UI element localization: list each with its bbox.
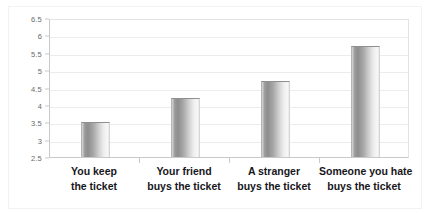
y-axis-tick-label: 2.5 — [31, 154, 42, 163]
x-axis-category-label: Someone you hatebuys the ticket — [319, 164, 409, 194]
y-axis-tick-label: 6 — [38, 32, 42, 41]
x-axis-tick-mark — [319, 158, 320, 163]
y-axis-tick-label: 5 — [38, 67, 42, 76]
bar-series — [50, 20, 408, 157]
x-axis-category-label-line: buys the ticket — [229, 179, 319, 194]
bar-slot — [50, 20, 140, 157]
y-axis: 6.565.554.543.532.5 — [0, 19, 49, 158]
bar[interactable] — [351, 46, 380, 157]
bar-slot — [140, 20, 230, 157]
x-axis-category-label: You keepthe ticket — [49, 164, 139, 194]
bar[interactable] — [261, 81, 290, 157]
y-axis-tick-label: 6.5 — [31, 15, 42, 24]
y-axis-tick-label: 3.5 — [31, 119, 42, 128]
x-axis-category-label-line: buys the ticket — [319, 179, 409, 194]
bar-slot — [320, 20, 410, 157]
x-axis-tick-mark — [139, 158, 140, 163]
x-axis-category-label-line: Someone you hate — [319, 164, 409, 179]
bar[interactable] — [81, 122, 110, 157]
x-axis-category-label-line: the ticket — [49, 179, 139, 194]
x-axis-category-label-line: Your friend — [139, 164, 229, 179]
bar-slot — [230, 20, 320, 157]
x-axis-tick-mark — [229, 158, 230, 163]
y-axis-tick-label: 3 — [38, 136, 42, 145]
plot-area — [49, 19, 409, 158]
x-axis-category-label: Your friendbuys the ticket — [139, 164, 229, 194]
bar-chart: 6.565.554.543.532.5 You keepthe ticketYo… — [0, 0, 430, 214]
bar[interactable] — [171, 98, 200, 157]
x-axis-category-label: A strangerbuys the ticket — [229, 164, 319, 194]
x-axis-category-label-line: buys the ticket — [139, 179, 229, 194]
y-axis-tick-label: 5.5 — [31, 49, 42, 58]
x-axis-category-label-line: You keep — [49, 164, 139, 179]
y-axis-tick-label: 4.5 — [31, 84, 42, 93]
x-axis-category-label-line: A stranger — [229, 164, 319, 179]
y-axis-tick-label: 4 — [38, 101, 42, 110]
